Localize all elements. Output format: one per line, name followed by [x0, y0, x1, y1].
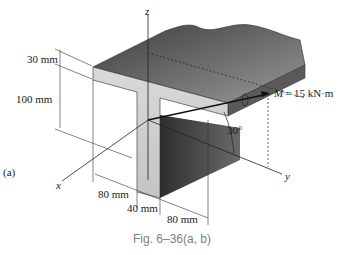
t-beam-figure: z x y 30 mm 100 mm 80 mm 40 mm 80 mm M =… — [0, 0, 341, 255]
moment-symbol: M — [274, 88, 283, 99]
figure-caption: Fig. 6–36(a, b) — [133, 233, 211, 245]
dim-left-overhang: 80 mm — [98, 189, 129, 200]
x-axis — [62, 120, 148, 181]
dim-right-overhang: 80 mm — [167, 214, 198, 225]
dim-flange-thickness: 30 mm — [27, 54, 58, 65]
x-axis-label: x — [56, 180, 61, 191]
angle-label: 30° — [227, 125, 242, 136]
y-axis-label: y — [285, 171, 290, 182]
z-axis-label: z — [145, 6, 149, 17]
dim-web-width: 40 mm — [127, 203, 158, 214]
part-label: (a) — [3, 167, 15, 178]
moment-value: = 15 kN·m — [285, 88, 333, 99]
dim-web-height: 100 mm — [16, 94, 52, 105]
